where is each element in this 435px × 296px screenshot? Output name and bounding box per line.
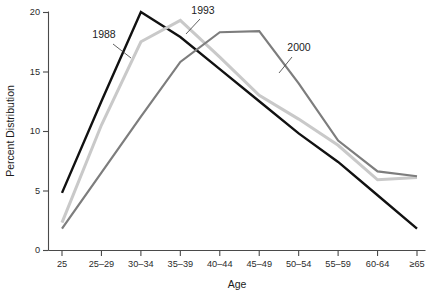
y-axis: 05101520 (30, 7, 49, 255)
series-line-2000 (62, 31, 417, 229)
x-tick-label: 55–59 (325, 259, 351, 269)
chart-figure: 05101520 2525–2930–3435–3940–4445–4950–5… (0, 0, 435, 296)
series-line-1993 (62, 20, 417, 222)
y-axis-title: Percent Distribution (4, 85, 16, 177)
x-axis-title: Age (228, 278, 247, 290)
x-tick-label: 35–39 (168, 259, 194, 269)
x-tick-label: 60-64 (366, 259, 390, 269)
x-tick-group: 2525–2930–3435–3940–4445–4950–5455–5960-… (57, 251, 425, 270)
series-group (62, 12, 417, 229)
x-tick-label: 45–49 (246, 259, 272, 269)
x-tick-label: ≥65 (409, 259, 424, 269)
x-tick-label: 25 (57, 259, 67, 269)
series-annotation-2000: 2000 (287, 41, 311, 53)
y-tick-label: 10 (30, 126, 40, 136)
x-tick-label: 50–54 (286, 259, 312, 269)
y-tick-label: 15 (30, 67, 40, 77)
y-tick-label: 20 (30, 7, 40, 17)
x-tick-label: 30–34 (128, 259, 154, 269)
y-tick-label: 5 (35, 186, 40, 196)
y-tick-group: 05101520 (30, 7, 49, 255)
x-tick-label: 25–29 (89, 259, 115, 269)
series-annotation-1993: 1993 (191, 4, 215, 16)
series-annotation-1988: 1988 (92, 28, 116, 40)
line-chart-canvas: 05101520 2525–2930–3435–3940–4445–4950–5… (0, 0, 435, 296)
x-tick-label: 40–44 (207, 259, 233, 269)
series-line-1988 (62, 12, 417, 229)
y-tick-label: 0 (35, 245, 40, 255)
x-axis: 2525–2930–3435–3940–4445–4950–5455–5960-… (49, 251, 426, 270)
